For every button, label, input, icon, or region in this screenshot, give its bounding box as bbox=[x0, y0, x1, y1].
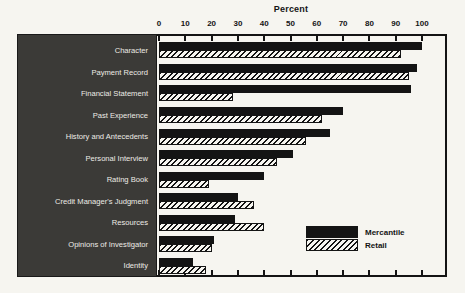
category-label: Payment Record bbox=[17, 69, 157, 77]
retail-bar bbox=[159, 93, 233, 101]
category-label: History and Antecedents bbox=[17, 133, 157, 141]
bar-pair bbox=[157, 169, 447, 191]
credit-factors-bar-chart: Percent 0102030405060708090100 Character… bbox=[0, 0, 465, 293]
bar-row: Credit Manager's Judgment bbox=[17, 191, 447, 213]
bar-pair bbox=[157, 40, 447, 62]
legend: Mercantile Retail bbox=[306, 226, 405, 251]
bar-row: History and Antecedents bbox=[17, 126, 447, 148]
retail-bar bbox=[159, 115, 322, 123]
mercantile-bar bbox=[159, 193, 238, 201]
category-label: Character bbox=[17, 47, 157, 55]
category-label: Financial Statement bbox=[17, 90, 157, 98]
retail-bar bbox=[159, 137, 306, 145]
mercantile-bar bbox=[159, 129, 330, 137]
bar-row: Rating Book bbox=[17, 169, 447, 191]
retail-bar bbox=[159, 50, 401, 58]
retail-bar bbox=[159, 266, 206, 274]
mercantile-bar bbox=[159, 107, 343, 115]
bar-pair bbox=[157, 83, 447, 105]
retail-bar bbox=[159, 72, 409, 80]
bar-pair bbox=[157, 62, 447, 84]
category-label: Past Experience bbox=[17, 112, 157, 120]
bar-pair bbox=[157, 126, 447, 148]
bar-row: Past Experience bbox=[17, 105, 447, 127]
bar-pair bbox=[157, 191, 447, 213]
mercantile-bar bbox=[159, 42, 422, 50]
mercantile-bar bbox=[159, 215, 235, 223]
legend-swatch-mercantile bbox=[306, 226, 358, 238]
x-axis-tick-label: 100 bbox=[407, 19, 437, 28]
legend-entry-mercantile: Mercantile bbox=[306, 226, 405, 238]
legend-label-retail: Retail bbox=[365, 241, 387, 250]
legend-swatch-retail bbox=[306, 239, 358, 251]
category-label: Opinions of Investigator bbox=[17, 241, 157, 249]
bar-pair bbox=[157, 255, 447, 277]
bar-pair bbox=[157, 105, 447, 127]
bar-row: Financial Statement bbox=[17, 83, 447, 105]
legend-entry-retail: Retail bbox=[306, 239, 405, 251]
category-label: Rating Book bbox=[17, 176, 157, 184]
bar-row: Personal Interview bbox=[17, 148, 447, 170]
mercantile-bar bbox=[159, 85, 411, 93]
retail-bar bbox=[159, 201, 254, 209]
mercantile-bar bbox=[159, 258, 193, 266]
retail-bar bbox=[159, 158, 277, 166]
category-label: Resources bbox=[17, 219, 157, 227]
bar-row: Character bbox=[17, 40, 447, 62]
retail-bar bbox=[159, 180, 209, 188]
retail-bar bbox=[159, 223, 264, 231]
retail-bar bbox=[159, 244, 212, 252]
category-label: Credit Manager's Judgment bbox=[17, 198, 157, 206]
mercantile-bar bbox=[159, 64, 417, 72]
x-axis-title: Percent bbox=[250, 4, 332, 14]
mercantile-bar bbox=[159, 150, 293, 158]
legend-label-mercantile: Mercantile bbox=[365, 228, 405, 237]
mercantile-bar bbox=[159, 236, 214, 244]
x-axis-tick-labels: 0102030405060708090100 bbox=[157, 19, 457, 30]
mercantile-bar bbox=[159, 172, 264, 180]
bar-row: Identity bbox=[17, 255, 447, 277]
category-label: Personal Interview bbox=[17, 155, 157, 163]
bar-pair bbox=[157, 148, 447, 170]
category-label: Identity bbox=[17, 262, 157, 270]
bar-row: Payment Record bbox=[17, 62, 447, 84]
